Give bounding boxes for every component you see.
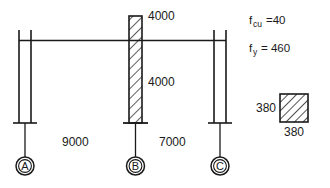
fcu-subscript: cu	[253, 19, 262, 29]
grid-label-b: B	[132, 160, 139, 172]
column-b	[123, 16, 148, 157]
dimension-upper-column-height: 4000	[148, 9, 175, 23]
section-detail: 380 380	[256, 94, 308, 139]
dimension-span-bc: 7000	[159, 135, 186, 149]
column-a	[13, 30, 37, 157]
grid-mark-a: A	[16, 157, 34, 175]
dimension-lower-column-height: 4000	[148, 75, 175, 89]
fy-subscript: y	[253, 47, 258, 57]
section-width-label: 380	[256, 101, 276, 115]
grid-label-a: A	[21, 160, 29, 172]
material-note-fcu: f cu =40	[249, 14, 286, 29]
section-hatched-square	[280, 94, 308, 122]
fy-value: = 460	[261, 42, 290, 54]
column-c	[208, 30, 232, 157]
structural-frame-diagram: 4000 4000 9000 7000 A B C f cu =40 f	[0, 0, 330, 188]
fcu-value: =40	[266, 14, 286, 26]
grid-label-c: C	[216, 160, 224, 172]
grid-mark-b: B	[127, 157, 145, 175]
grid-mark-c: C	[211, 157, 229, 175]
dimension-span-ab: 9000	[62, 135, 89, 149]
frame-drawing-canvas: 4000 4000 9000 7000 A B C f cu =40 f	[0, 0, 330, 188]
section-height-label: 380	[284, 125, 304, 139]
material-note-fy: f y = 460	[249, 42, 290, 57]
column-b-hatched-section	[129, 16, 142, 123]
